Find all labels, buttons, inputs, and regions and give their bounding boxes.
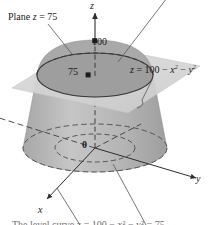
plane-value-label: 75 <box>68 66 78 77</box>
apex-value-label: 100 <box>92 36 107 47</box>
plane-height-point-marker <box>86 72 91 77</box>
x-axis-label: x <box>38 204 42 215</box>
paraboloid-diagram <box>0 0 212 225</box>
origin-label: 0 <box>82 139 87 150</box>
caption-leader <box>113 164 146 225</box>
y-axis-label: y <box>196 173 200 184</box>
figure-caption: The level curve z = 100 − x² − y² = 75 <box>12 219 165 225</box>
plane-label: Plane z = 75 <box>8 11 57 22</box>
surface-equation-label: z = 100 − x2 − y2 <box>130 63 196 75</box>
z-axis-label: z <box>90 0 94 11</box>
